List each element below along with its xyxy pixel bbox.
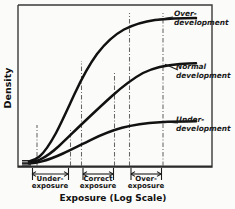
- curve-under-development: [29, 121, 196, 163]
- series-labels: Over- development Normal development Und…: [174, 9, 231, 133]
- zone-labels: Under- exposure Correct exposure Over- e…: [32, 175, 165, 191]
- zone-label-under-exposure-line2: exposure: [32, 182, 69, 190]
- label-under-development-line2: development: [176, 124, 231, 133]
- label-over-development-line2: development: [174, 18, 229, 27]
- chart-canvas: Over- development Normal development Und…: [0, 0, 235, 209]
- zone-label-over-exposure-line2: exposure: [128, 182, 165, 190]
- curve-normal-development: [29, 63, 196, 162]
- curve-over-development: [29, 18, 196, 162]
- y-axis-title: Density: [2, 67, 13, 109]
- zone-marker-lines: [37, 13, 163, 166]
- characteristic-curve-figure: Over- development Normal development Und…: [0, 0, 235, 209]
- label-normal-development-line2: development: [176, 71, 231, 80]
- zone-label-correct-exposure-line2: exposure: [80, 182, 117, 190]
- curves: [29, 18, 196, 164]
- label-leader-lines: [155, 17, 178, 123]
- x-axis-title: Exposure (Log Scale): [60, 193, 167, 203]
